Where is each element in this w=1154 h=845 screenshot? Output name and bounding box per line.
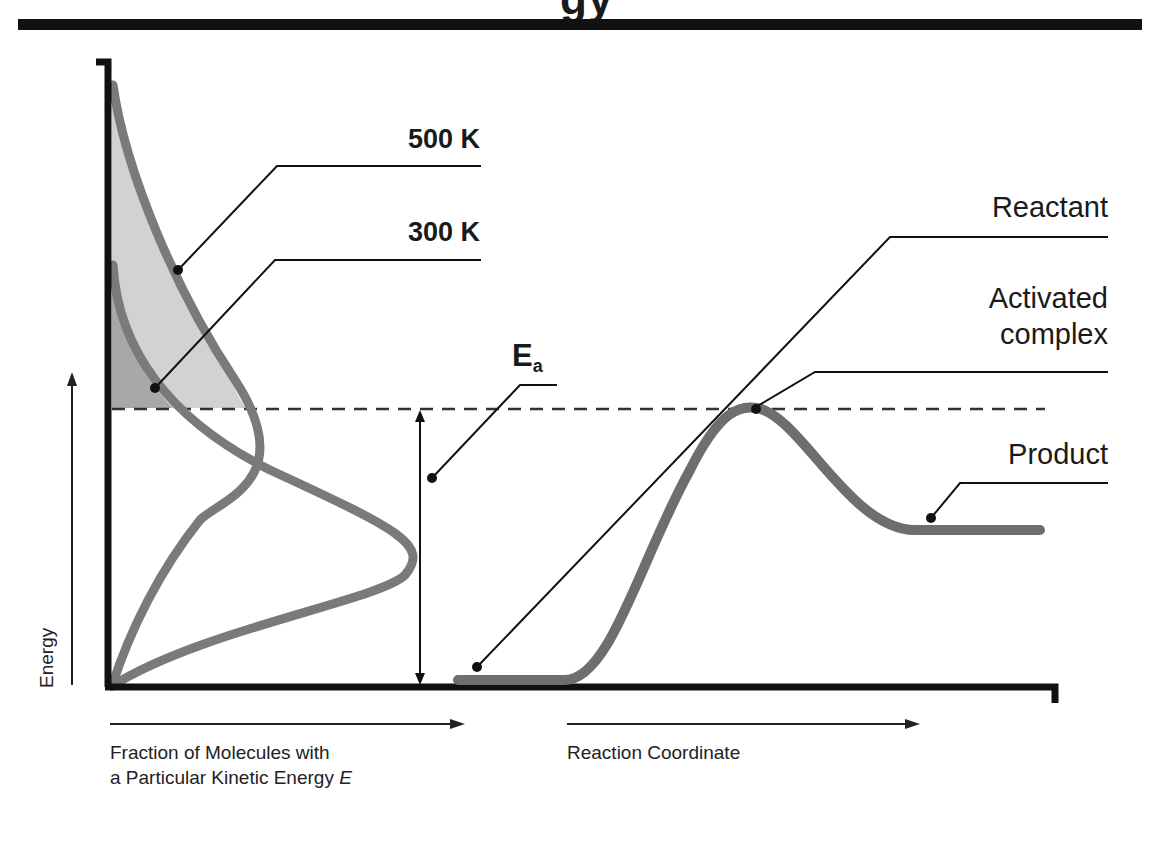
fraction-label-line1: Fraction of Molecules with — [110, 740, 352, 765]
leader-activated-complex — [756, 372, 1108, 407]
dot-activated-complex — [751, 404, 761, 414]
label-reactant: Reactant — [888, 190, 1108, 225]
label-activated-line1: Activated — [888, 281, 1108, 316]
x-axis — [105, 687, 1055, 703]
leader-ea — [432, 385, 557, 478]
fraction-label-line2-text: a Particular Kinetic Energy — [110, 767, 339, 788]
leader-product — [931, 483, 1108, 518]
fraction-label-line2: a Particular Kinetic Energy E — [110, 765, 352, 790]
x-axis-label-reaction-coordinate: Reaction Coordinate — [567, 740, 740, 765]
x-axis-label-fraction: Fraction of Molecules with a Particular … — [110, 740, 352, 790]
label-ea: Ea — [512, 338, 543, 377]
ea-main: E — [512, 338, 533, 373]
fraction-arrow-icon — [450, 719, 465, 729]
label-product: Product — [888, 437, 1108, 472]
dot-reactant — [472, 662, 482, 672]
y-axis-label-energy: Energy — [36, 628, 58, 688]
energy-arrow-icon — [67, 372, 77, 386]
title-rule — [18, 19, 1142, 30]
label-300k: 300 K — [340, 217, 480, 248]
fraction-label-italic-e: E — [339, 767, 352, 788]
ea-arrow-down-icon — [415, 673, 425, 685]
ea-arrow-up-icon — [415, 410, 425, 422]
dot-500k — [173, 265, 183, 275]
y-axis — [96, 62, 108, 687]
reaction-arrow-icon — [905, 719, 920, 729]
dot-300k — [150, 383, 160, 393]
dot-product — [926, 513, 936, 523]
dot-ea — [427, 473, 437, 483]
label-500k: 500 K — [340, 124, 480, 155]
label-activated-line2: complex — [888, 317, 1108, 352]
energy-diagram: gy — [0, 0, 1154, 845]
diagram-canvas — [0, 0, 1154, 845]
ea-sub: a — [533, 356, 543, 376]
